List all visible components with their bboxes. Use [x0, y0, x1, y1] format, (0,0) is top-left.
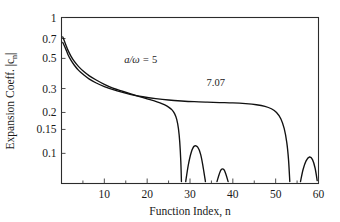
y-tick-label-1: 1 [51, 12, 57, 24]
svg-text:Function Index, n: Function Index, n [149, 205, 231, 218]
annotation-value: 5 [152, 54, 157, 65]
x-tick-label-20: 20 [141, 188, 153, 200]
y-tick-label-0.15: 0.15 [36, 123, 56, 135]
x-axis-tick-labels: 102030405060 [99, 188, 325, 200]
y-axis-title-tail: | [4, 53, 17, 55]
x-axis-title: Function Index, n [149, 205, 231, 218]
expansion-coefficient-chart: 10.70.50.30.20.150.1 102030405060 a/ω = … [0, 0, 340, 222]
y-axis-title: Expansion Coeff. |cn| [4, 53, 19, 150]
data-curves [63, 37, 317, 182]
svg-text:Expansion Coeff. |cn|: Expansion Coeff. |cn| [4, 53, 19, 150]
x-tick-label-50: 50 [270, 188, 282, 200]
y-tick-label-0.7: 0.7 [42, 33, 57, 45]
curve-label-7-07: 7.07 [207, 77, 225, 88]
x-tick-label-10: 10 [99, 188, 111, 200]
y-tick-label-0.3: 0.3 [42, 83, 57, 95]
curve-a-omega-7-07 [63, 42, 290, 181]
curve-sidelobe-3 [301, 157, 318, 182]
x-tick-label-30: 30 [184, 188, 196, 200]
curve-a-omega-5 [63, 37, 182, 182]
curve-sidelobe-2 [217, 169, 228, 182]
figure-container: 10.70.50.30.20.150.1 102030405060 a/ω = … [0, 0, 340, 222]
y-axis-tick-labels: 10.70.50.30.20.150.1 [36, 12, 56, 160]
annotation-symbol: a/ω = [124, 54, 152, 65]
x-tick-label-40: 40 [227, 188, 239, 200]
x-tick-label-60: 60 [313, 188, 325, 200]
y-tick-label-0.2: 0.2 [42, 106, 57, 118]
y-tick-label-0.1: 0.1 [42, 147, 57, 159]
curve-annotations: a/ω = 57.07 [124, 54, 225, 87]
y-tick-label-0.5: 0.5 [42, 52, 57, 64]
y-axis-title-main: Expansion Coeff. |c [4, 59, 17, 150]
curve-sidelobe-1 [186, 146, 206, 182]
x-axis-ticks [83, 179, 319, 184]
curve-label-a-over-omega: a/ω = 5 [124, 54, 157, 65]
